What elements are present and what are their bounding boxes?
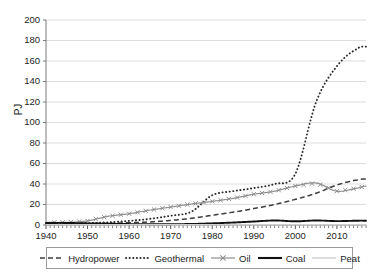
x-tick-label: 2000	[272, 230, 318, 241]
y-tick-label: 80	[10, 138, 40, 148]
legend-swatch-coal-icon	[257, 253, 283, 263]
y-tick-label: 200	[10, 15, 40, 25]
x-tick-label: 1940	[23, 230, 69, 241]
legend-label: Coal	[286, 253, 306, 264]
y-tick-label: 60	[10, 158, 40, 168]
x-tick-label: 1950	[65, 230, 111, 241]
y-tick-label: 20	[10, 199, 40, 209]
x-axis-ticks	[46, 225, 366, 229]
legend-swatch-peat-icon	[311, 253, 337, 263]
gridlines	[46, 20, 366, 225]
x-tick-label: 2010	[314, 230, 360, 241]
x-tick-label: 1960	[106, 230, 152, 241]
y-tick-label: 40	[10, 179, 40, 189]
legend-item-peat[interactable]: Peat	[308, 253, 363, 264]
x-tick-label: 1990	[231, 230, 277, 241]
legend-item-oil[interactable]: Oil	[207, 253, 254, 264]
chart-root: 020406080100120140160180200 194019501960…	[0, 0, 374, 279]
data-series-group	[46, 47, 366, 225]
series-oil	[46, 181, 366, 224]
x-tick-label: 1970	[148, 230, 194, 241]
y-axis-title: PJ	[13, 88, 24, 132]
legend-label: Oil	[239, 253, 251, 264]
legend-swatch-oil-icon	[210, 253, 236, 263]
chart-legend: HydropowerGeothermalOilCoalPeat	[46, 247, 353, 269]
legend-swatch-geothermal-icon	[125, 253, 151, 263]
y-tick-label: 160	[10, 56, 40, 66]
series-geothermal	[46, 47, 366, 224]
legend-label: Peat	[340, 253, 360, 264]
legend-item-hydropower[interactable]: Hydropower	[36, 253, 122, 264]
legend-item-geothermal[interactable]: Geothermal	[122, 253, 207, 264]
y-tick-label: 180	[10, 35, 40, 45]
x-tick-label: 1980	[189, 230, 235, 241]
legend-label: Geothermal	[154, 253, 204, 264]
legend-swatch-hydropower-icon	[39, 253, 65, 263]
y-tick-label: 140	[10, 76, 40, 86]
legend-item-coal[interactable]: Coal	[254, 253, 309, 264]
y-tick-label: 0	[10, 220, 40, 230]
legend-label: Hydropower	[68, 253, 119, 264]
